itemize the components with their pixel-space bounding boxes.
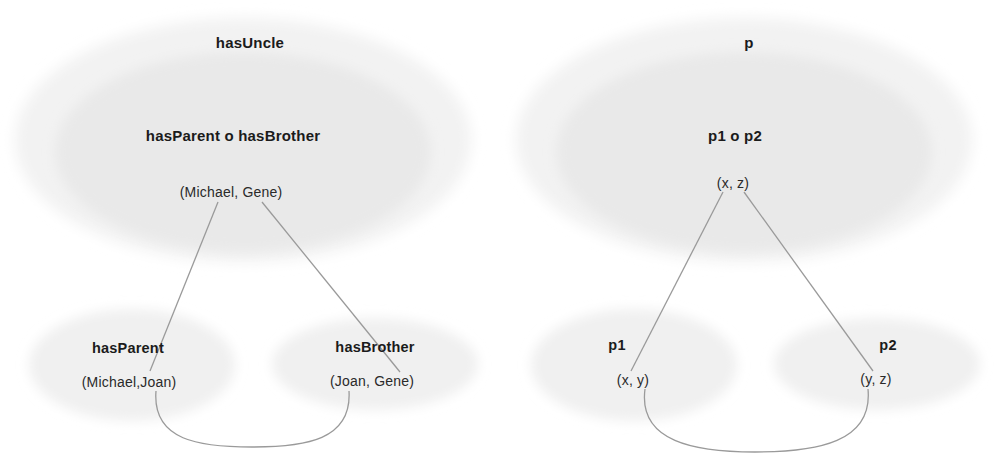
right-ellipse-p2 (774, 318, 980, 410)
diagram-canvas (0, 0, 996, 464)
inner-ellipse-hasParent-o-hasBrother (55, 52, 431, 252)
left-ellipse-hasParent (29, 309, 235, 421)
label-outer-ellipse-hasUncle: hasUncle (216, 34, 284, 51)
inner-ellipse-p1-o-p2 (556, 52, 932, 252)
label-outer-ellipse-p: p (744, 34, 753, 51)
label-right-ellipse-p2: p2 (879, 337, 896, 353)
label-left-pair-x-y: (x, y) (617, 372, 649, 388)
panel-abstract-schema (516, 18, 980, 452)
label-left-ellipse-p1: p1 (608, 337, 625, 353)
right-ellipse-hasBrother (272, 318, 478, 410)
label-left-pair-michael-joan: (Michael,Joan) (82, 374, 177, 390)
label-inner-ellipse-composition: hasParent o hasBrother (146, 127, 320, 144)
label-inner-ellipse-p1-o-p2: p1 o p2 (708, 127, 762, 144)
label-right-pair-joan-gene: (Joan, Gene) (330, 373, 414, 389)
relation-composition-diagram: hasUncle hasParent o hasBrother (Michael… (0, 0, 996, 464)
label-right-ellipse-hasBrother: hasBrother (335, 339, 414, 355)
label-composed-pair-michael-gene: (Michael, Gene) (180, 184, 283, 200)
label-composed-pair-x-z: (x, z) (717, 175, 749, 191)
label-right-pair-y-z: (y, z) (860, 371, 891, 387)
label-left-ellipse-hasParent: hasParent (92, 340, 164, 356)
